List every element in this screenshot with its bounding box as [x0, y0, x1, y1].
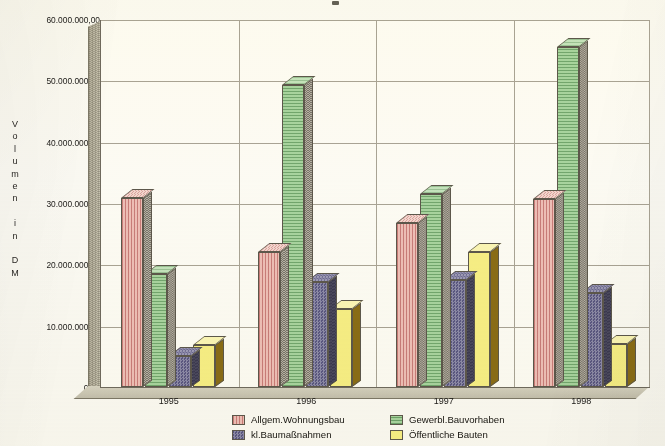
bar-group-1997: [376, 20, 514, 387]
x-axis-tick-label: 1996: [261, 396, 351, 406]
bar-1995-series-0: [121, 198, 143, 387]
bar-group-1995: [101, 20, 239, 387]
bar-face-side: [466, 273, 475, 387]
x-axis-tick-label: 1995: [124, 396, 214, 406]
pink-striped-swatch: [232, 415, 245, 425]
chart-legend: Allgem.WohnungsbauGewerbl.Bauvorhabenkl.…: [232, 412, 562, 442]
legend-item-0[interactable]: Allgem.Wohnungsbau: [232, 414, 390, 425]
bar-1998-series-0: [533, 199, 555, 387]
legend-label: kl.Baumaßnahmen: [251, 429, 332, 440]
green-striped-swatch: [390, 415, 403, 425]
legend-label: Gewerbl.Bauvorhaben: [409, 414, 504, 425]
x-axis-tick-label: 1998: [536, 396, 626, 406]
bar-group-1998: [514, 20, 652, 387]
legend-item-1[interactable]: Gewerbl.Bauvorhaben: [390, 414, 562, 425]
bar-face-side: [304, 79, 313, 387]
bar-face-side: [418, 216, 427, 387]
bar-1996-series-0: [258, 252, 280, 387]
y-axis-tick-label: 50.000.000,00: [8, 76, 100, 86]
bar-face-side: [579, 40, 588, 387]
legend-label: Allgem.Wohnungsbau: [251, 414, 345, 425]
bar-face-side: [555, 192, 564, 387]
bar-face-side: [627, 338, 636, 387]
legend-item-3[interactable]: Öffentliche Bauten: [390, 429, 562, 440]
bar-face-side: [143, 192, 152, 387]
bar-face-side: [280, 246, 289, 387]
bar-face-front: [533, 199, 555, 387]
yellow-solid-swatch: [390, 430, 403, 440]
legend-item-2[interactable]: kl.Baumaßnahmen: [232, 429, 390, 440]
bar-face-side: [603, 287, 612, 387]
bar-face-front: [258, 252, 280, 387]
bar-face-side: [215, 339, 224, 387]
bar-face-side: [490, 246, 499, 387]
y-axis-tick-label: 40.000.000,00: [8, 138, 100, 148]
bar-face-front: [121, 198, 143, 387]
chart-plot-area: [100, 20, 650, 388]
bar-face-side: [442, 187, 451, 387]
bar-face-front: [396, 223, 418, 387]
y-axis-tick-label: 60.000.000,00: [8, 15, 100, 25]
blue-dotted-swatch: [232, 430, 245, 440]
bar-group-1996: [239, 20, 377, 387]
y-axis-tick-label: 20.000.000,00: [8, 260, 100, 270]
y-axis-tick-label: 30.000.000,00: [8, 199, 100, 209]
plot-background: [100, 20, 650, 388]
y-axis-tick-label: 10.000.000,00: [8, 322, 100, 332]
bar-face-side: [352, 303, 361, 387]
bar-1997-series-0: [396, 223, 418, 387]
y-axis-tick-labels: 0,0010.000.000,0020.000.000,0030.000.000…: [0, 0, 100, 446]
scan-artifact-speck: [332, 1, 339, 5]
bar-face-side: [167, 267, 176, 387]
bar-face-side: [328, 275, 337, 387]
legend-label: Öffentliche Bauten: [409, 429, 488, 440]
x-axis-tick-label: 1997: [399, 396, 489, 406]
